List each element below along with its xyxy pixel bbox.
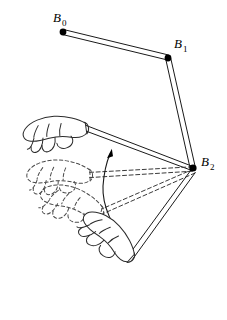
- joint-label-b0-subscript: 0: [62, 18, 67, 28]
- joint-label-b1-letter: B: [174, 36, 182, 51]
- joint-dot-b0: [60, 29, 67, 36]
- joint-dot-b2: [189, 164, 196, 171]
- skeletal-rotation-diagram: B 0 B 1 B 2: [0, 0, 227, 320]
- figure-root: B 0 B 1 B 2: [0, 0, 227, 320]
- bone-b1-b2: [166, 58, 196, 169]
- joint-label-b0: B 0: [53, 10, 67, 28]
- bone-b2-hand-pose-1: [84, 125, 192, 170]
- hand-pose-2: [26, 159, 93, 196]
- hand-pose-1: [21, 112, 91, 155]
- bone-b0-b1: [63, 30, 169, 61]
- joint-label-b1-subscript: 1: [183, 44, 188, 54]
- joint-label-b2: B 2: [201, 154, 215, 172]
- joint-label-b0-letter: B: [53, 10, 61, 25]
- joint-dot-b1: [165, 55, 172, 62]
- joint-label-b2-letter: B: [201, 154, 209, 169]
- joint-label-b1: B 1: [174, 36, 188, 54]
- joint-label-b2-subscript: 2: [210, 162, 215, 172]
